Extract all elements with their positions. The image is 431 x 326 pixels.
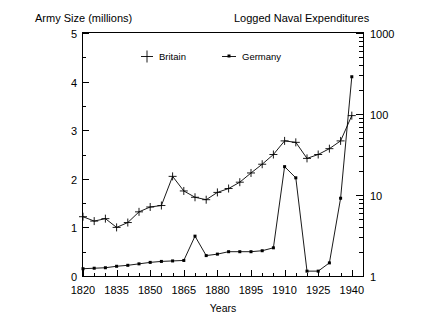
data-point-marker	[350, 75, 353, 78]
x-axis-label: Years	[210, 302, 236, 314]
data-point-marker	[115, 265, 118, 268]
data-point-marker	[250, 250, 253, 253]
x-tick-label: 1820	[71, 284, 95, 296]
data-point-marker	[182, 259, 185, 262]
data-point-marker	[171, 259, 174, 262]
left-tick-label: 5	[71, 28, 77, 40]
legend-label-germany: Germany	[242, 51, 281, 62]
chart-background	[0, 0, 431, 326]
left-axis-title: Army Size (millions)	[35, 12, 132, 24]
right-axis-title: Logged Naval Expenditures	[234, 12, 370, 24]
x-tick-label: 1850	[138, 284, 162, 296]
data-point-marker	[317, 270, 320, 273]
data-point-marker	[261, 249, 264, 252]
data-point-marker	[149, 261, 152, 264]
data-point-marker	[339, 197, 342, 200]
x-axis-tick-labels: 182018351850186518801895191019251940	[71, 284, 364, 296]
legend-label-britain: Britain	[159, 51, 186, 62]
x-tick-label: 1835	[104, 284, 128, 296]
x-tick-label: 1925	[306, 284, 330, 296]
x-tick-label: 1895	[239, 284, 263, 296]
data-point-marker	[283, 165, 286, 168]
data-point-marker	[104, 266, 107, 269]
left-tick-label: 0	[71, 271, 77, 283]
x-tick-label: 1910	[272, 284, 296, 296]
x-tick-label: 1940	[340, 284, 364, 296]
data-point-marker	[306, 270, 309, 273]
data-point-marker	[126, 264, 129, 267]
left-tick-label: 1	[71, 222, 77, 234]
data-point-marker	[238, 250, 241, 253]
right-tick-label: 1000	[370, 28, 394, 40]
data-point-marker	[216, 253, 219, 256]
left-tick-label: 3	[71, 125, 77, 137]
data-point-marker	[138, 262, 141, 265]
data-point-marker	[160, 260, 163, 263]
left-tick-label: 4	[71, 77, 77, 89]
line-chart: Army Size (millions) Logged Naval Expend…	[0, 0, 431, 326]
left-tick-label: 2	[71, 174, 77, 186]
right-tick-label: 100	[370, 109, 388, 121]
x-tick-label: 1865	[172, 284, 196, 296]
data-point-marker	[227, 250, 230, 253]
x-tick-label: 1880	[205, 284, 229, 296]
right-tick-label: 1	[370, 271, 376, 283]
data-point-marker	[294, 176, 297, 179]
data-point-marker	[272, 246, 275, 249]
data-point-marker	[82, 267, 85, 270]
chart-container: Army Size (millions) Logged Naval Expend…	[0, 0, 431, 326]
right-tick-label: 10	[370, 190, 382, 202]
data-point-marker	[93, 267, 96, 270]
data-point-marker	[205, 254, 208, 257]
data-point-marker	[328, 261, 331, 264]
data-point-marker	[194, 235, 197, 238]
